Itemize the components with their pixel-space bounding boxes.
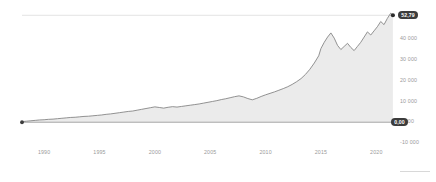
x-axis-tick: 2010 (259, 150, 271, 155)
chart-svg (22, 8, 394, 143)
y-axis-tick: 40 000 (400, 37, 417, 42)
x-axis-tick: 1995 (93, 150, 105, 155)
x-axis: 1990199520002005201020152020 (22, 150, 394, 162)
y-axis: -10 0000 00010 00020 00030 00040 00050 0… (396, 0, 436, 182)
x-axis-tick: 1990 (38, 150, 50, 155)
axis-footer-rule (400, 171, 430, 172)
price-area-fill (22, 13, 393, 122)
end-point-marker (391, 13, 395, 17)
start-point-marker (20, 120, 24, 124)
x-axis-tick: 2020 (370, 150, 382, 155)
y-axis-tick: 20 000 (400, 78, 417, 83)
stock-chart-widget: -10 0000 00010 00020 00030 00040 00050 0… (0, 0, 436, 182)
last-value-badge[interactable]: 52,79 (398, 11, 418, 19)
y-axis-tick: -10 000 (400, 140, 419, 145)
chart-plot-area[interactable] (22, 8, 394, 143)
y-axis-tick: 10 000 (400, 99, 417, 104)
x-axis-tick: 2015 (315, 150, 327, 155)
y-axis-tick: 30 000 (400, 57, 417, 62)
zero-value-badge[interactable]: 0,00 (391, 118, 408, 126)
x-axis-tick: 2005 (204, 150, 216, 155)
x-axis-tick: 2000 (149, 150, 161, 155)
